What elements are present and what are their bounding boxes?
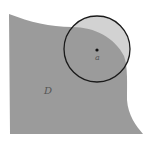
diagram-canvas: a D [0, 0, 151, 143]
point-a-dot [95, 48, 98, 51]
region-d-label: D [43, 85, 52, 96]
point-a-label: a [95, 53, 100, 62]
